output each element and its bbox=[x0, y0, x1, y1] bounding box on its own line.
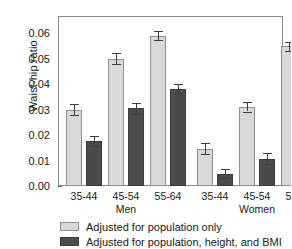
bar-women-45-54-population-only bbox=[239, 107, 255, 186]
y-tick-label-4: 0.04 bbox=[0, 78, 50, 90]
x-label-women-45-54: 45-54 bbox=[244, 190, 271, 202]
errorbar-women-55-64-population-only bbox=[289, 42, 290, 51]
errorbar-cap-bottom-women-35-44-population-only bbox=[201, 154, 210, 155]
errorbar-cap-top-women-35-44-population-only bbox=[201, 143, 210, 144]
group-label-men: Men bbox=[116, 203, 136, 215]
y-tick-label-5: 0.05 bbox=[0, 53, 50, 65]
x-label-men-55-64: 55-64 bbox=[155, 190, 182, 202]
errorbar-cap-top-women-35-44-height-bmi bbox=[221, 169, 230, 170]
x-label-men-35-44: 35-44 bbox=[71, 190, 98, 202]
legend-swatch-light-icon bbox=[60, 222, 79, 231]
bar-men-55-64-height-bmi bbox=[170, 89, 186, 186]
errorbar-women-45-54-population-only bbox=[247, 102, 248, 111]
errorbar-cap-top-men-35-44-population-only bbox=[70, 104, 79, 105]
y-tick-label-1: 0.01 bbox=[0, 155, 50, 167]
group-label-women: Women bbox=[239, 203, 275, 215]
errorbar-men-55-64-height-bmi bbox=[178, 84, 179, 93]
errorbar-men-35-44-height-bmi bbox=[94, 136, 95, 146]
y-tick-label-6: 0.06 bbox=[0, 27, 50, 39]
errorbar-men-45-54-population-only bbox=[116, 53, 117, 64]
errorbar-cap-bottom-men-55-64-height-bmi bbox=[174, 94, 183, 95]
errorbar-cap-bottom-women-45-54-population-only bbox=[243, 112, 252, 113]
bar-men-35-44-population-only bbox=[66, 110, 82, 187]
bar-men-45-54-height-bmi bbox=[128, 108, 144, 186]
errorbar-cap-top-men-55-64-population-only bbox=[154, 31, 163, 32]
y-tick-label-2: 0.02 bbox=[0, 129, 50, 141]
legend-item-height-bmi: Adjusted for population, height, and BMI bbox=[60, 234, 291, 249]
bar-women-55-64-population-only bbox=[281, 46, 291, 186]
y-tick-label-3: 0.03 bbox=[0, 104, 50, 116]
errorbar-cap-bottom-men-55-64-population-only bbox=[154, 40, 163, 41]
errorbar-men-45-54-height-bmi bbox=[136, 103, 137, 114]
errorbar-cap-bottom-men-35-44-population-only bbox=[70, 115, 79, 116]
legend-label-height-bmi: Adjusted for population, height, and BMI bbox=[86, 236, 282, 248]
errorbar-women-35-44-population-only bbox=[205, 143, 206, 154]
errorbar-cap-bottom-men-45-54-height-bmi bbox=[132, 114, 141, 115]
legend-item-population-only: Adjusted for population only bbox=[60, 219, 291, 234]
errorbar-cap-bottom-men-35-44-height-bmi bbox=[90, 146, 99, 147]
y-tick-mark-0 bbox=[58, 186, 62, 187]
bar-men-45-54-population-only bbox=[108, 59, 124, 187]
errorbar-men-55-64-population-only bbox=[158, 31, 159, 40]
errorbar-cap-top-men-45-54-population-only bbox=[112, 53, 121, 54]
errorbar-cap-top-women-45-54-population-only bbox=[243, 102, 252, 103]
legend-swatch-dark-icon bbox=[60, 237, 79, 246]
legend-label-population-only: Adjusted for population only bbox=[86, 221, 222, 233]
errorbar-cap-top-men-45-54-height-bmi bbox=[132, 103, 141, 104]
chart-figure: Waist-hip ratio 0.00 0.01 0.02 0.03 0.04… bbox=[0, 0, 291, 249]
errorbar-women-35-44-height-bmi bbox=[225, 169, 226, 178]
x-label-men-45-54: 45-54 bbox=[113, 190, 140, 202]
errorbar-cap-bottom-women-55-64-population-only bbox=[285, 51, 292, 52]
chart-legend: Adjusted for population only Adjusted fo… bbox=[60, 219, 291, 249]
errorbar-cap-top-women-55-64-population-only bbox=[285, 42, 292, 43]
y-tick-label-0: 0.00 bbox=[0, 180, 50, 192]
errorbar-cap-bottom-women-45-54-height-bmi bbox=[263, 164, 272, 165]
x-label-women-55-64: 55-64 bbox=[286, 190, 291, 202]
errorbar-cap-top-men-35-44-height-bmi bbox=[90, 136, 99, 137]
bar-men-35-44-height-bmi bbox=[86, 141, 102, 186]
errorbar-cap-top-men-55-64-height-bmi bbox=[174, 84, 183, 85]
x-label-women-35-44: 35-44 bbox=[202, 190, 229, 202]
errorbar-cap-top-women-45-54-height-bmi bbox=[263, 153, 272, 154]
errorbar-women-45-54-height-bmi bbox=[267, 153, 268, 163]
errorbar-men-35-44-population-only bbox=[74, 104, 75, 115]
bar-men-55-64-population-only bbox=[150, 36, 166, 186]
errorbar-cap-bottom-women-35-44-height-bmi bbox=[221, 178, 230, 179]
errorbar-cap-bottom-men-45-54-population-only bbox=[112, 64, 121, 65]
